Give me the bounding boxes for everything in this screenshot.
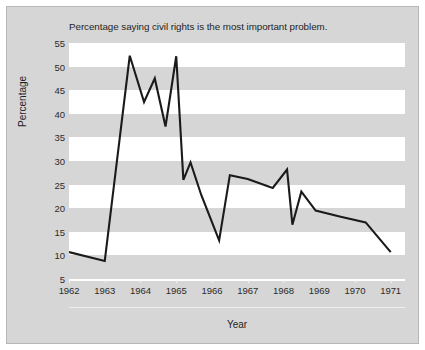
- chart-canvas: Percentage saying civil rights is the mo…: [6, 6, 419, 344]
- x-axis-tick-label: 1971: [368, 285, 414, 296]
- y-axis-tick-label: 25: [35, 179, 65, 190]
- y-axis-tick-label: 20: [35, 203, 65, 214]
- y-axis-tick-label: 35: [35, 132, 65, 143]
- y-axis-tick-label: 55: [35, 38, 65, 49]
- series-layer: [69, 43, 405, 279]
- y-axis-tick-label: 5: [35, 274, 65, 285]
- x-axis-title: Year: [69, 319, 405, 330]
- series-line-civil-rights: [69, 56, 391, 261]
- x-axis-tick: [69, 280, 70, 283]
- x-axis-tick: [391, 280, 392, 283]
- chart-title: Percentage saying civil rights is the mo…: [69, 21, 327, 32]
- y-axis-tick-label: 30: [35, 156, 65, 167]
- x-axis-tick: [140, 280, 141, 283]
- plot-area: [69, 43, 405, 279]
- x-axis-tick: [283, 280, 284, 283]
- x-axis-tick: [105, 280, 106, 283]
- x-axis-tick: [248, 280, 249, 283]
- y-axis-title: Percentage: [17, 76, 28, 127]
- y-axis-tick-label: 45: [35, 85, 65, 96]
- y-axis-tick-label: 50: [35, 61, 65, 72]
- x-axis-tick: [319, 280, 320, 283]
- y-axis-tick-label: 15: [35, 226, 65, 237]
- x-axis-tick: [212, 280, 213, 283]
- x-axis-tick: [176, 280, 177, 283]
- x-axis-secondary-rule: [69, 307, 405, 308]
- y-axis-tick-label: 40: [35, 108, 65, 119]
- x-axis-tick: [355, 280, 356, 283]
- y-axis-tick-label: 10: [35, 250, 65, 261]
- figure: Percentage saying civil rights is the mo…: [0, 0, 425, 350]
